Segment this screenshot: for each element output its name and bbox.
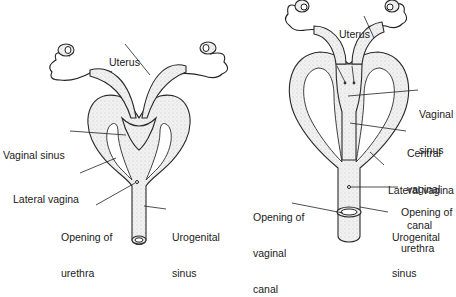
label-text: Vaginal sinus bbox=[3, 149, 65, 161]
label-text: sinus bbox=[172, 267, 220, 279]
left-urogenital-leader bbox=[144, 206, 166, 209]
label-text: sinus bbox=[392, 267, 440, 279]
right-urogenital-leader bbox=[360, 207, 388, 212]
label-text: Lateral vagina bbox=[13, 193, 79, 205]
right-urethra-opening bbox=[348, 186, 351, 189]
label-text: Opening of bbox=[253, 211, 304, 223]
left-urethra-leader bbox=[96, 183, 135, 205]
label-text: Vaginal bbox=[419, 108, 453, 120]
label-text: urethra bbox=[61, 267, 112, 279]
label-opening-vaginal-canal: Opening of vaginal canal bbox=[253, 187, 304, 297]
label-text: Opening of bbox=[61, 231, 112, 243]
label-text: Urogenital bbox=[172, 231, 220, 243]
label-text: Urogenital bbox=[392, 231, 440, 243]
label-text: canal bbox=[253, 283, 304, 295]
label-urogenital-sinus-left: Urogenital sinus bbox=[172, 207, 220, 297]
label-uterus-left: Uterus bbox=[109, 32, 140, 92]
left-urethra-opening bbox=[136, 181, 139, 184]
label-text: Uterus bbox=[109, 56, 140, 68]
right-lateral-vagina-leader bbox=[370, 152, 384, 165]
label-opening-urethra-left: Opening of urethra bbox=[61, 207, 112, 297]
label-text: Uterus bbox=[339, 28, 370, 40]
label-text: vaginal bbox=[253, 247, 304, 259]
label-text: Central bbox=[407, 147, 441, 159]
label-urogenital-sinus-right: Urogenital sinus bbox=[392, 207, 440, 297]
label-uterus-right: Uterus bbox=[339, 4, 370, 64]
